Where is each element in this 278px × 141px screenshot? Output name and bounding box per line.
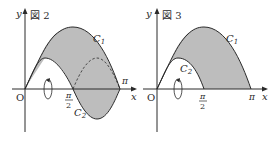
tick-half-pi-denominator: 2 [200,102,205,111]
y-axis-arrow-icon [23,8,28,14]
shaded-region [25,27,120,119]
tick-pi: π [248,92,256,102]
tick-half-pi-denominator: 2 [66,101,71,110]
y-axis-label: y [145,8,152,19]
origin-label: O [147,92,155,103]
figure-3: y 図 3 O x π π 2 C1 C2 [143,8,268,132]
origin-label: O [16,92,24,103]
tick-pi: π [121,76,129,86]
y-axis-arrow-icon [155,8,160,14]
shaded-region [157,27,251,89]
y-axis-label: y [15,8,22,19]
diagram-canvas: y 図 2 O x π π 2 C1 C2 y 図 3 O x π π 2 C1… [0,0,278,141]
x-axis-label: x [131,91,137,102]
figure-title: 図 2 [30,10,50,21]
tick-half-pi-numerator: π [65,91,72,100]
figure-title: 図 3 [162,10,182,21]
figure-2: y 図 2 O x π π 2 C1 C2 [12,8,137,132]
x-axis-label: x [262,91,268,102]
tick-half-pi-numerator: π [199,92,206,101]
